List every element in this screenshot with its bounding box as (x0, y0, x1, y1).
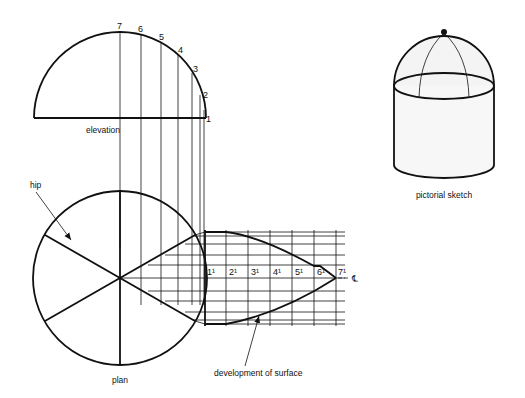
projection-lines (120, 32, 204, 305)
hip-leader (36, 192, 71, 240)
svg-text:4¹: 4¹ (273, 267, 281, 277)
hip-label: hip (30, 180, 42, 190)
pictorial-label: pictorial sketch (416, 190, 472, 200)
point-2: 2 (203, 90, 208, 100)
svg-text:1¹: 1¹ (207, 267, 215, 277)
point-1: 1 (206, 114, 211, 124)
plan-label: plan (112, 375, 128, 385)
pictorial-sketch (394, 29, 494, 178)
point-3: 3 (193, 64, 198, 74)
point-6: 6 (138, 24, 143, 34)
drawing-canvas: ℄ 1 2 3 4 5 6 7 1¹ 2¹ 3¹ 4¹ 5¹ 6¹ 7¹ ele… (0, 0, 525, 398)
development-leader (245, 316, 259, 366)
point-7: 7 (117, 21, 122, 31)
apex-dot (441, 29, 447, 35)
svg-text:6¹: 6¹ (317, 267, 325, 277)
svg-text:3¹: 3¹ (251, 267, 259, 277)
point-5: 5 (159, 32, 164, 42)
svg-text:7¹: 7¹ (338, 267, 346, 277)
horizontal-construction-lines (120, 232, 345, 324)
development-label: development of surface (214, 368, 303, 378)
svg-text:5¹: 5¹ (295, 267, 303, 277)
elevation-numbers: 1 2 3 4 5 6 7 (117, 21, 211, 124)
development-numbers: 1¹ 2¹ 3¹ 4¹ 5¹ 6¹ 7¹ (207, 267, 346, 277)
svg-text:2¹: 2¹ (229, 267, 237, 277)
centre-line-symbol: ℄ (351, 274, 358, 284)
point-4: 4 (178, 45, 183, 55)
elevation-label: elevation (86, 125, 120, 135)
